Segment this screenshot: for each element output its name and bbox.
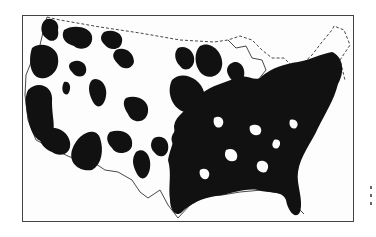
density-blobs (26, 19, 343, 215)
us-map (0, 0, 376, 237)
scan-edge-marks (370, 186, 374, 212)
